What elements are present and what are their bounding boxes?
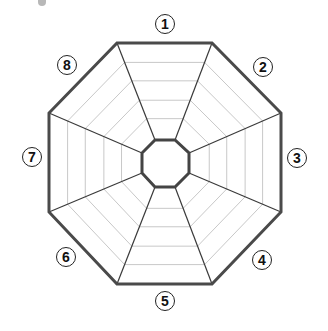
spoke-line <box>175 43 212 140</box>
axis-label-1: 1 <box>155 14 175 34</box>
axis-label-8: 8 <box>57 55 77 75</box>
axis-label-7: 7 <box>22 147 42 167</box>
grid-line <box>68 204 125 264</box>
spoke-line <box>175 187 212 284</box>
axis-label-3: 3 <box>287 148 307 168</box>
spoke-line <box>49 113 142 153</box>
grid-line <box>122 182 147 209</box>
axis-label-5: 5 <box>155 291 175 311</box>
spoke-line <box>117 43 155 140</box>
spoke-line <box>49 173 142 212</box>
grid-line <box>183 182 209 209</box>
axis-label-4: 4 <box>252 250 272 270</box>
grid-line <box>183 119 209 145</box>
axis-label-2: 2 <box>253 57 273 77</box>
octagon-radar-diagram <box>0 0 328 331</box>
grid-line <box>198 197 246 246</box>
inner-octagon <box>142 140 189 187</box>
grid-line <box>198 81 246 129</box>
grid-line <box>122 119 147 145</box>
spoke-line <box>189 173 281 212</box>
spoke-line <box>117 187 155 284</box>
grid-line <box>85 197 132 246</box>
axis-label-6: 6 <box>56 247 76 267</box>
grid-line <box>85 81 132 129</box>
grid-line <box>68 62 125 121</box>
